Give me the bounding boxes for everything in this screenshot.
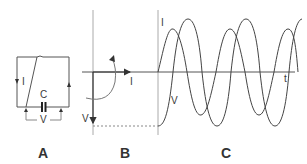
phasor-voltage-label: V [82, 114, 89, 124]
current-arrow-right-icon [67, 82, 71, 87]
circuit-voltage-label: V [40, 115, 47, 125]
waveform-current-label: I [161, 18, 164, 28]
capacitor-label: C [40, 90, 47, 100]
time-axis-label: t [284, 74, 287, 84]
voltage-arrow-left-icon [24, 108, 28, 112]
current-arrow-left-icon [15, 79, 19, 84]
top-wire [17, 56, 69, 57]
phasor-current-label: I [130, 77, 133, 87]
panel-b-title: B [120, 146, 130, 160]
rotation-arrow-icon [109, 55, 115, 62]
circuit-current-label: I [22, 77, 25, 87]
diagram-canvas [0, 0, 307, 164]
panel-b-phasor [82, 10, 158, 135]
rotation-arc [86, 58, 116, 99]
panel-c-waveforms [150, 10, 302, 135]
diagonal-line [26, 57, 37, 107]
voltage-arrow-right-icon [59, 108, 63, 112]
waveform-voltage-label: V [171, 96, 178, 106]
panel-c-title: C [221, 146, 231, 160]
panel-a-title: A [38, 146, 48, 160]
